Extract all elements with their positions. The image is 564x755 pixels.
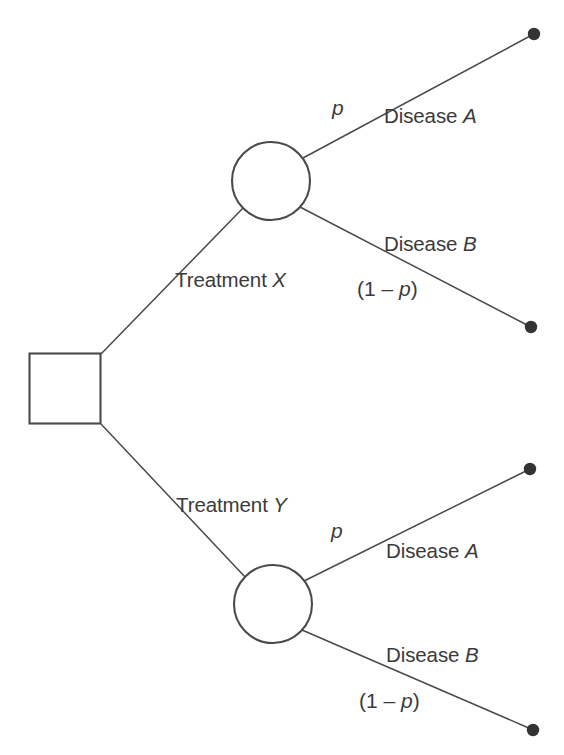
label-lower-disease-a: Disease A (386, 541, 479, 562)
label-upper-one-minus-p-open: (1 – (357, 277, 399, 300)
chance-node-lower-circle[interactable] (234, 565, 312, 643)
terminal-node-upper-disease-b[interactable] (525, 321, 537, 333)
label-upper-disease-b-text: Disease (384, 232, 463, 255)
decision-tree-diagram: p Disease A Disease B (1 – p) Treatment … (0, 0, 564, 755)
terminal-node-lower-disease-b[interactable] (527, 724, 539, 736)
label-upper-disease-b: Disease B (384, 234, 477, 255)
chance-node-upper-circle[interactable] (232, 142, 310, 220)
label-upper-probability-p: p (332, 97, 344, 118)
label-lower-probability-one-minus-p: (1 – p) (359, 690, 420, 711)
branch-upper-disease-b[interactable] (300, 207, 529, 326)
decision-node-square[interactable] (30, 354, 101, 424)
label-lower-one-minus-p-variable: p (401, 689, 413, 712)
label-treatment-x-variable: X (272, 268, 286, 291)
label-lower-disease-b-variable: B (465, 643, 479, 666)
label-upper-one-minus-p-variable: p (399, 277, 411, 300)
label-lower-one-minus-p-open: (1 – (359, 689, 401, 712)
label-lower-disease-a-variable: A (465, 539, 479, 562)
terminal-node-lower-disease-a[interactable] (524, 463, 536, 475)
label-upper-disease-a: Disease A (384, 106, 477, 127)
label-lower-disease-a-text: Disease (386, 539, 465, 562)
label-upper-probability-one-minus-p: (1 – p) (357, 278, 418, 299)
label-treatment-x-text: Treatment (175, 268, 272, 291)
label-upper-disease-a-variable: A (463, 104, 477, 127)
label-upper-one-minus-p-close: ) (411, 277, 418, 300)
label-lower-probability-p: p (331, 520, 343, 541)
label-upper-disease-b-variable: B (463, 232, 477, 255)
label-upper-disease-a-text: Disease (384, 104, 463, 127)
label-lower-one-minus-p-close: ) (413, 689, 420, 712)
label-lower-disease-b-text: Disease (386, 643, 465, 666)
terminal-node-upper-disease-a[interactable] (528, 28, 540, 40)
label-lower-disease-b: Disease B (386, 645, 479, 666)
label-treatment-y: Treatment Y (176, 495, 287, 516)
label-treatment-y-text: Treatment (176, 493, 273, 516)
label-treatment-y-variable: Y (273, 493, 287, 516)
label-treatment-x: Treatment X (175, 270, 286, 291)
decision-tree-canvas (0, 0, 564, 755)
